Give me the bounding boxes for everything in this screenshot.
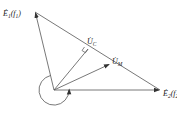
e1-label: Ė1(f1) <box>2 9 21 19</box>
phasor-diagram: Ė1(f1) Ė2(f2) U̇C U̇M <box>0 0 177 118</box>
um-vector <box>54 65 109 91</box>
uc-label: U̇C <box>87 37 97 47</box>
rotation-arrow-icon <box>67 89 72 95</box>
uc-vector <box>54 49 88 90</box>
e1-e2-connector-line <box>35 12 160 90</box>
e2-label: Ė2(f2) <box>162 89 177 99</box>
um-label: U̇M <box>112 57 123 67</box>
